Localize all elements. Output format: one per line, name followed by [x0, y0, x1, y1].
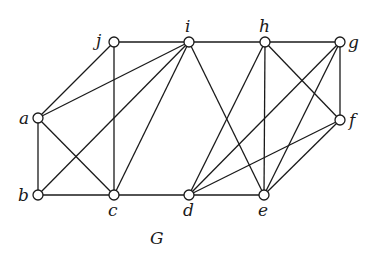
graph-title: G	[150, 228, 164, 248]
node-label-d: d	[183, 200, 194, 220]
node-a	[33, 113, 43, 123]
graph-diagram: abcdefghij G	[0, 0, 374, 261]
node-label-h: h	[259, 16, 270, 36]
edge-a-j	[38, 42, 114, 118]
node-label-b: b	[18, 185, 29, 205]
nodes-layer	[33, 37, 345, 200]
node-label-i: i	[185, 16, 190, 36]
node-h	[260, 37, 270, 47]
node-label-e: e	[258, 200, 268, 220]
node-label-a: a	[19, 108, 29, 128]
edge-g-e	[264, 42, 340, 195]
node-g	[335, 37, 345, 47]
node-j	[109, 37, 119, 47]
node-e	[259, 190, 269, 200]
edges-layer	[38, 42, 340, 195]
node-label-j: j	[92, 30, 102, 50]
node-f	[335, 115, 345, 125]
edge-f-e	[264, 120, 340, 195]
node-label-c: c	[108, 200, 118, 220]
edge-c-i	[114, 42, 189, 195]
node-label-g: g	[348, 32, 359, 52]
node-d	[184, 190, 194, 200]
node-label-f: f	[347, 110, 358, 130]
node-c	[109, 190, 119, 200]
node-i	[184, 37, 194, 47]
node-b	[33, 190, 43, 200]
